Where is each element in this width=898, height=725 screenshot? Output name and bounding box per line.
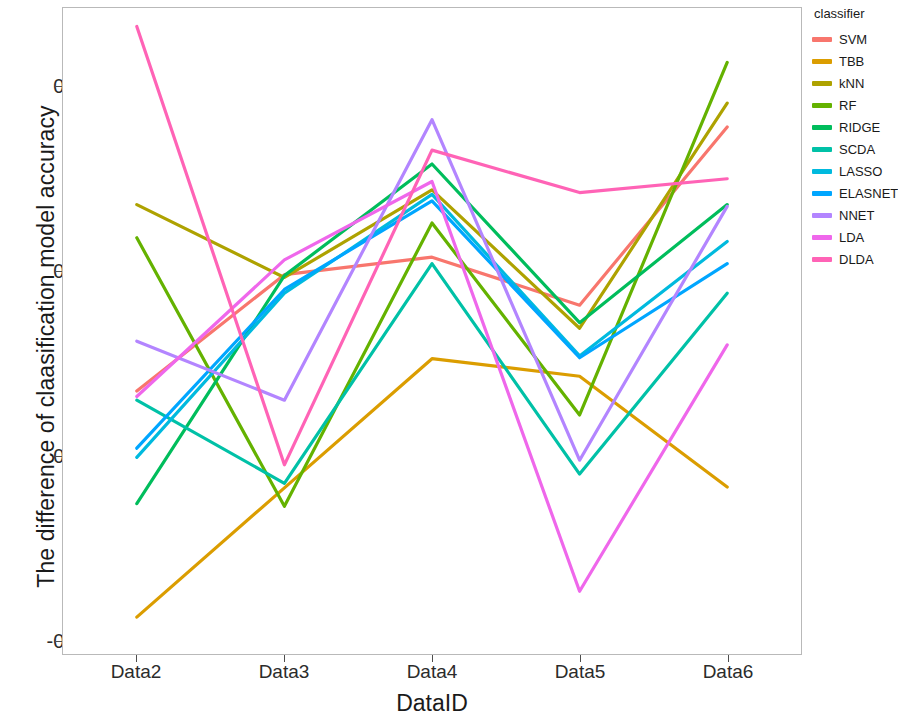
legend-item-label: RF [839, 98, 856, 113]
x-axis-tick-label: Data6 [703, 661, 754, 683]
legend-item-svm[interactable]: SVM [812, 28, 889, 50]
plot-lines [63, 8, 801, 654]
legend-item-ridge[interactable]: RIDGE [812, 116, 889, 138]
legend-item-lasso[interactable]: LASSO [812, 160, 889, 182]
legend-item-dlda[interactable]: DLDA [812, 248, 889, 270]
legend-color-swatch [812, 103, 832, 108]
legend-item-rf[interactable]: RF [812, 94, 889, 116]
legend-item-label: RIDGE [839, 120, 880, 135]
x-axis-tick-mark [580, 655, 581, 662]
legend-item-label: TBB [839, 54, 864, 69]
legend-item-label: NNET [839, 208, 874, 223]
legend-item-label: LDA [839, 230, 864, 245]
legend-color-swatch [812, 125, 832, 130]
series-line-ridge [137, 164, 727, 504]
legend-title: classifier [814, 6, 889, 21]
legend-color-swatch [812, 81, 832, 86]
x-axis-tick-mark [136, 655, 137, 662]
legend: classifier SVMTBBkNNRFRIDGESCDALASSOELAS… [812, 6, 889, 270]
y-axis-tick-mark [55, 86, 62, 87]
legend-item-knn[interactable]: kNN [812, 72, 889, 94]
legend-item-label: DLDA [839, 252, 874, 267]
y-axis-tick-mark [55, 641, 62, 642]
series-line-lda [137, 181, 727, 591]
legend-color-swatch [812, 235, 832, 240]
legend-color-swatch [812, 191, 832, 196]
series-line-scda [137, 264, 727, 484]
legend-item-label: SCDA [839, 142, 875, 157]
legend-item-lda[interactable]: LDA [812, 226, 889, 248]
legend-item-tbb[interactable]: TBB [812, 50, 889, 72]
y-axis-tick-mark [55, 456, 62, 457]
series-line-rf [137, 62, 727, 506]
legend-color-swatch [812, 147, 832, 152]
y-axis-title: The difference of claasification model a… [33, 27, 60, 667]
x-axis-title: DataID [62, 690, 802, 717]
legend-color-swatch [812, 213, 832, 218]
x-axis-tick-mark [728, 655, 729, 662]
plot-panel [62, 7, 802, 655]
x-axis-tick-mark [284, 655, 285, 662]
legend-item-label: ELASNET [839, 186, 898, 201]
legend-item-scda[interactable]: SCDA [812, 138, 889, 160]
x-axis-tick-label: Data4 [407, 661, 458, 683]
legend-item-elasnet[interactable]: ELASNET [812, 182, 889, 204]
legend-item-nnet[interactable]: NNET [812, 204, 889, 226]
legend-color-swatch [812, 37, 832, 42]
x-axis-tick-mark [432, 655, 433, 662]
legend-color-swatch [812, 59, 832, 64]
x-axis-tick-label: Data5 [555, 661, 606, 683]
legend-color-swatch [812, 169, 832, 174]
legend-color-swatch [812, 257, 832, 262]
x-axis-tick-label: Data3 [259, 661, 310, 683]
y-axis-tick-mark [55, 271, 62, 272]
legend-item-list: SVMTBBkNNRFRIDGESCDALASSOELASNETNNETLDAD… [812, 28, 889, 270]
x-axis-tick-label: Data2 [111, 661, 162, 683]
legend-item-label: SVM [839, 32, 867, 47]
legend-item-label: kNN [839, 76, 864, 91]
legend-item-label: LASSO [839, 164, 882, 179]
